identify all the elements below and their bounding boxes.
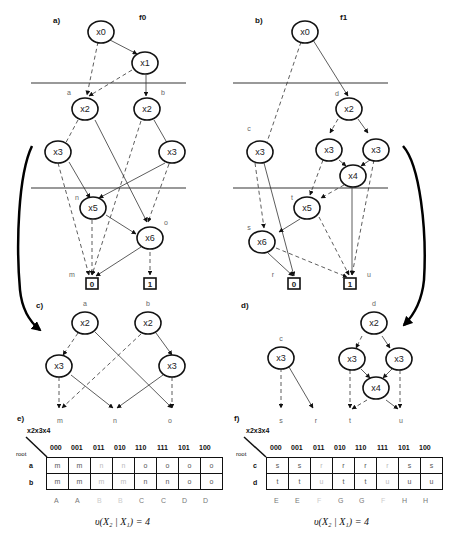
svg-text:x6: x6: [257, 237, 267, 247]
svg-text:x3: x3: [53, 147, 63, 157]
edge-label: c: [247, 125, 251, 132]
node-x4: x4: [340, 165, 366, 187]
table-row: t t u t t u u u: [267, 474, 443, 490]
panel-c-label: c): [36, 301, 43, 310]
panel-e-label: e): [17, 414, 24, 423]
edge-label: m: [57, 417, 63, 424]
terminal-0: 0: [86, 278, 98, 289]
edge-label: b: [161, 89, 165, 96]
terminal-1: 1: [344, 278, 356, 289]
svg-text:x2: x2: [143, 318, 153, 328]
svg-text:0: 0: [292, 280, 297, 289]
node-x3: x3: [386, 348, 412, 370]
table-f-corner-label: x2x3x4: [246, 427, 269, 434]
node-x3: x3: [45, 141, 71, 163]
terminal-0: 0: [288, 278, 300, 289]
svg-text:x3: x3: [371, 145, 381, 155]
table-row: m m n n o o o o: [47, 458, 223, 474]
edge-label: r: [315, 417, 318, 424]
svg-text:x4: x4: [371, 383, 381, 393]
table-e-root-label: root: [16, 451, 26, 457]
svg-text:x2: x2: [142, 104, 152, 114]
node-x2: x2: [134, 98, 160, 120]
table-f-root-label: root: [236, 451, 246, 457]
svg-text:x3: x3: [276, 353, 286, 363]
svg-text:x4: x4: [348, 171, 358, 181]
table-row: s s r r r r s s: [267, 458, 443, 474]
svg-text:x3: x3: [167, 361, 177, 371]
edge-label: n: [75, 194, 79, 201]
node-x2: x2: [72, 312, 98, 334]
edge-label: t: [291, 194, 293, 201]
edge-label: r: [272, 271, 275, 278]
svg-text:0: 0: [90, 280, 95, 289]
svg-text:x5: x5: [88, 203, 98, 213]
node-x3: x3: [316, 139, 342, 161]
edge-label: u: [367, 271, 371, 278]
edge-label: s: [247, 224, 251, 231]
svg-text:x0: x0: [96, 27, 106, 37]
node-x2: x2: [361, 312, 387, 334]
svg-text:x2: x2: [369, 318, 379, 328]
svg-text:x3: x3: [394, 354, 404, 364]
table-e: m m n n o o o o m m m m n n o o: [46, 457, 223, 490]
edge-label: a: [83, 300, 87, 307]
panel-a-title: f0: [139, 13, 147, 22]
svg-text:x3: x3: [324, 145, 334, 155]
node-x0: x0: [292, 21, 318, 43]
edge-label: u: [399, 417, 403, 424]
node-x3: x3: [268, 347, 294, 369]
node-x2: x2: [72, 98, 98, 120]
formula-e: υ(X₂ | X₁) = 4: [95, 516, 150, 527]
svg-text:x2: x2: [80, 318, 90, 328]
edge-label: s: [279, 417, 283, 424]
svg-text:x1: x1: [140, 58, 150, 68]
edge-label: n: [113, 417, 117, 424]
node-x0: x0: [88, 21, 114, 43]
node-x1: x1: [132, 52, 158, 74]
table-row: m m m m n n o o: [47, 474, 223, 490]
node-x6: x6: [137, 227, 163, 249]
table-e-row-label: b: [29, 479, 33, 486]
table-f-row-label: d: [253, 479, 257, 486]
edge-label: t: [349, 417, 351, 424]
edge-label: o: [164, 219, 168, 226]
node-x3: x3: [339, 348, 365, 370]
table-f-row-label: c: [253, 462, 257, 469]
edge-label: a: [67, 89, 71, 96]
edge-label: b: [146, 300, 150, 307]
svg-text:x6: x6: [145, 233, 155, 243]
node-x2: x2: [336, 98, 362, 120]
node-x5: x5: [80, 197, 106, 219]
big-arrow-right-icon: [403, 146, 425, 325]
formula-f: υ(X₂ | X₁) = 4: [314, 516, 369, 527]
svg-text:x0: x0: [300, 27, 310, 37]
panel-d-label: d): [241, 301, 249, 310]
panel-b-label: b): [255, 16, 263, 25]
node-x6: x6: [249, 231, 275, 253]
edge-label: d: [372, 300, 376, 307]
svg-text:x2: x2: [344, 104, 354, 114]
table-e-corner-label: x2x3x4: [27, 427, 50, 434]
node-x3: x3: [159, 355, 185, 377]
node-x2: x2: [135, 312, 161, 334]
svg-text:x2: x2: [80, 104, 90, 114]
panel-a-label: a): [53, 16, 60, 25]
svg-text:x3: x3: [167, 147, 177, 157]
node-x3: x3: [363, 139, 389, 161]
svg-text:1: 1: [148, 280, 153, 289]
svg-text:x3: x3: [54, 361, 64, 371]
panel-f-label: f): [234, 414, 240, 423]
terminal-1: 1: [144, 278, 156, 289]
edge-label: o: [168, 417, 172, 424]
node-x5: x5: [294, 197, 320, 219]
svg-text:x5: x5: [302, 203, 312, 213]
svg-text:x3: x3: [255, 147, 265, 157]
node-x3: x3: [247, 141, 273, 163]
panel-b-title: f1: [340, 13, 348, 22]
table-f: s s r r r r s s t t u t t u u u: [266, 457, 443, 490]
edge-label: m: [69, 271, 75, 278]
svg-text:1: 1: [348, 280, 353, 289]
node-x3: x3: [46, 355, 72, 377]
edge-label: c: [279, 335, 283, 342]
